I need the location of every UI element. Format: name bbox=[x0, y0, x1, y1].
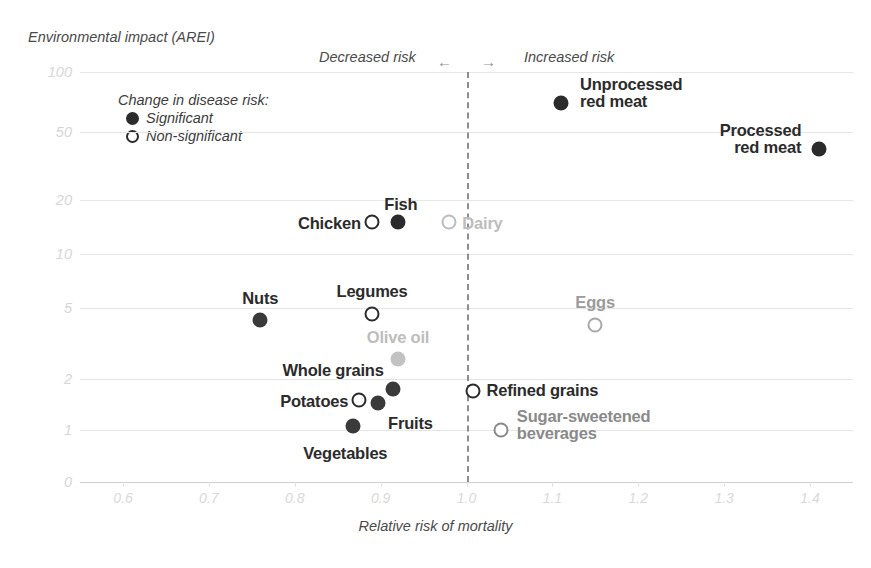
data-point-label: Eggs bbox=[575, 294, 615, 311]
data-point[interactable] bbox=[390, 351, 405, 366]
x-tick-label: 0.8 bbox=[285, 490, 304, 506]
y-tick-label: 0 bbox=[16, 474, 72, 490]
y-tick-label: 20 bbox=[16, 192, 72, 208]
data-point[interactable] bbox=[442, 215, 457, 230]
x-tick-mark bbox=[724, 482, 725, 487]
left-arrow-icon: ← bbox=[437, 57, 452, 67]
data-point[interactable] bbox=[352, 393, 367, 408]
data-point[interactable] bbox=[365, 307, 380, 322]
data-point[interactable] bbox=[386, 381, 401, 396]
data-point-label: Vegetables bbox=[303, 445, 387, 462]
y-tick-label: 100 bbox=[16, 64, 72, 80]
x-tick-label: 1.3 bbox=[714, 490, 733, 506]
x-tick-mark bbox=[638, 482, 639, 487]
data-point-label: Olive oil bbox=[367, 329, 429, 346]
data-point[interactable] bbox=[346, 419, 361, 434]
data-point-label: Dairy bbox=[462, 215, 502, 232]
x-tick-mark bbox=[810, 482, 811, 487]
x-tick-label: 1.2 bbox=[629, 490, 648, 506]
data-point-label: Processed red meat bbox=[720, 122, 802, 156]
data-point-label: Chicken bbox=[298, 215, 361, 232]
data-point-label: Whole grains bbox=[282, 362, 383, 379]
data-point[interactable] bbox=[253, 312, 268, 327]
y-tick-label: 5 bbox=[16, 300, 72, 316]
x-tick-label: 0.7 bbox=[199, 490, 218, 506]
data-point[interactable] bbox=[365, 215, 380, 230]
data-point[interactable] bbox=[390, 215, 405, 230]
x-tick-mark bbox=[209, 482, 210, 487]
data-point[interactable] bbox=[465, 383, 480, 398]
y-tick-label: 1 bbox=[16, 422, 72, 438]
scatter-chart: Environmental impact (AREI) Relative ris… bbox=[0, 0, 871, 568]
data-point[interactable] bbox=[553, 95, 568, 110]
data-point-label: Potatoes bbox=[280, 393, 348, 410]
x-tick-mark bbox=[295, 482, 296, 487]
data-point-label: Sugar-sweetened beverages bbox=[517, 408, 651, 442]
x-axis-title: Relative risk of mortality bbox=[0, 518, 871, 534]
data-point[interactable] bbox=[811, 141, 826, 156]
y-axis-title: Environmental impact (AREI) bbox=[28, 29, 215, 45]
data-point-label: Legumes bbox=[337, 283, 408, 300]
x-tick-mark bbox=[552, 482, 553, 487]
decreased-risk-annotation: Decreased risk bbox=[319, 49, 416, 65]
x-tick-mark bbox=[381, 482, 382, 487]
y-tick-label: 50 bbox=[16, 124, 72, 140]
x-tick-mark bbox=[123, 482, 124, 487]
reference-line-x1 bbox=[467, 72, 469, 482]
plot-area: Unprocessed red meatProcessed red meatCh… bbox=[80, 72, 853, 482]
data-point[interactable] bbox=[493, 423, 508, 438]
x-tick-label: 1.0 bbox=[457, 490, 476, 506]
x-tick-label: 0.9 bbox=[371, 490, 390, 506]
y-tick-label: 2 bbox=[16, 371, 72, 387]
data-point-label: Nuts bbox=[242, 290, 278, 307]
data-point-label: Fruits bbox=[388, 415, 433, 432]
data-point-label: Refined grains bbox=[487, 382, 599, 399]
x-tick-label: 0.6 bbox=[113, 490, 132, 506]
data-point[interactable] bbox=[588, 318, 603, 333]
x-tick-label: 1.4 bbox=[800, 490, 819, 506]
y-tick-label: 10 bbox=[16, 246, 72, 262]
x-tick-label: 1.1 bbox=[543, 490, 562, 506]
increased-risk-annotation: Increased risk bbox=[524, 49, 614, 65]
data-point-label: Unprocessed red meat bbox=[580, 76, 682, 110]
data-point-label: Fish bbox=[384, 196, 417, 213]
data-point[interactable] bbox=[371, 395, 386, 410]
x-tick-mark bbox=[467, 482, 468, 487]
right-arrow-icon: → bbox=[481, 57, 496, 67]
